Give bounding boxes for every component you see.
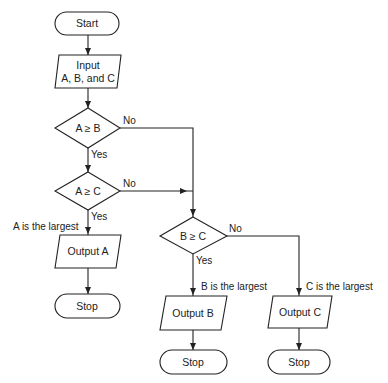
edge-label-ab-no: No bbox=[123, 115, 136, 126]
stop-b-label: Stop bbox=[182, 356, 204, 368]
output-a-parallelogram: Output A bbox=[55, 235, 121, 268]
decision-a-ge-b-label: A ≥ B bbox=[75, 122, 100, 134]
edge-label-b-largest: B is the largest bbox=[201, 281, 267, 292]
start-label: Start bbox=[76, 17, 98, 29]
stop-b-terminal: Stop bbox=[160, 350, 227, 374]
edge-label-c-largest: C is the largest bbox=[306, 281, 373, 292]
edge-label-bc-yes: Yes bbox=[196, 255, 212, 266]
output-b-label: Output B bbox=[172, 307, 213, 319]
stop-c-terminal: Stop bbox=[268, 350, 330, 374]
stop-a-label: Stop bbox=[76, 300, 98, 312]
edge-label-ac-yes: Yes bbox=[91, 211, 107, 222]
decision-b-ge-c-label: B ≥ C bbox=[180, 230, 207, 242]
edge-label-a-largest: A is the largest bbox=[13, 221, 79, 232]
flowchart-svg: Start Input A, B, and C A ≥ B No Yes A ≥… bbox=[0, 0, 388, 383]
input-label-line2: A, B, and C bbox=[61, 72, 115, 84]
output-b-parallelogram: Output B bbox=[160, 296, 227, 330]
output-c-label: Output C bbox=[279, 306, 321, 318]
input-parallelogram: Input A, B, and C bbox=[55, 55, 121, 88]
start-terminal: Start bbox=[55, 12, 119, 35]
decision-a-ge-b: A ≥ B bbox=[55, 108, 120, 148]
input-label-line1: Input bbox=[76, 59, 99, 71]
flowchart-canvas: Start Input A, B, and C A ≥ B No Yes A ≥… bbox=[0, 0, 388, 383]
edge-label-bc-no: No bbox=[229, 223, 242, 234]
decision-a-ge-c-label: A ≥ C bbox=[75, 185, 101, 197]
output-a-label: Output A bbox=[68, 245, 109, 257]
decision-b-ge-c: B ≥ C bbox=[160, 217, 227, 254]
edge-label-ac-no: No bbox=[123, 178, 136, 189]
output-c-parallelogram: Output C bbox=[268, 296, 332, 328]
decision-a-ge-c: A ≥ C bbox=[55, 172, 120, 210]
edge-label-ab-yes: Yes bbox=[91, 149, 107, 160]
stop-c-label: Stop bbox=[288, 356, 310, 368]
stop-a-terminal: Stop bbox=[55, 294, 120, 318]
